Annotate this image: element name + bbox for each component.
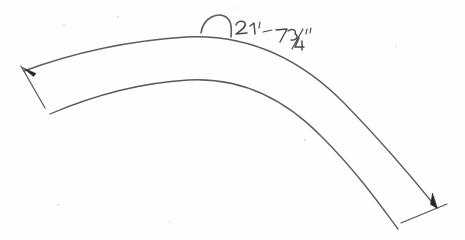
arc-dimension-drawing	[0, 0, 465, 240]
sketch-canvas: 21'-7 3/4"	[0, 0, 465, 240]
paper-background	[0, 0, 465, 240]
